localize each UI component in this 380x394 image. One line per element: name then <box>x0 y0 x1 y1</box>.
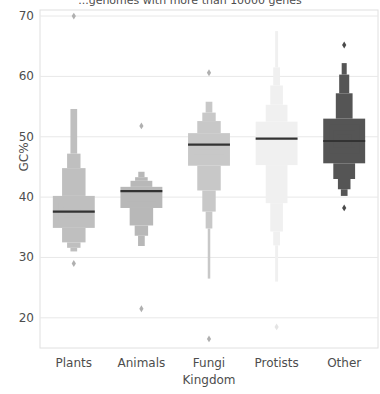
letter-value-band <box>208 228 211 278</box>
letter-value-plot-figure: ...genomes with more than 10000 genes GC… <box>0 0 380 394</box>
letter-value-band <box>62 228 85 242</box>
letter-value-band <box>138 236 145 246</box>
letter-value-band <box>270 203 283 231</box>
letter-value-band <box>138 172 144 177</box>
letter-value-band <box>135 177 148 181</box>
letter-value-band <box>67 242 80 247</box>
letter-value-band <box>333 163 355 179</box>
letter-value-band <box>273 67 280 85</box>
letter-value-band <box>70 109 77 154</box>
letter-value-band <box>336 93 353 118</box>
letter-value-band <box>266 105 288 122</box>
letter-value-band <box>202 113 215 121</box>
letter-value-band <box>342 63 347 74</box>
letter-value-band <box>339 75 349 94</box>
letter-value-band <box>135 225 148 235</box>
letter-value-band <box>197 166 220 191</box>
letter-value-band <box>338 179 351 189</box>
letter-value-band <box>206 102 213 113</box>
letter-value-band <box>70 248 77 252</box>
letter-value-band <box>202 190 215 211</box>
letter-value-band <box>270 85 283 104</box>
letter-value-band <box>206 212 213 229</box>
letter-value-band <box>273 232 280 246</box>
letter-value-band <box>131 181 153 187</box>
letter-value-band <box>62 168 85 196</box>
letter-value-band <box>275 31 278 67</box>
letter-value-band <box>197 121 220 133</box>
letter-value-band <box>341 189 348 196</box>
plot-canvas <box>0 0 380 394</box>
letter-value-band <box>275 245 278 281</box>
letter-value-band <box>67 154 80 168</box>
letter-value-band <box>266 165 288 203</box>
letter-value-band <box>130 208 153 226</box>
